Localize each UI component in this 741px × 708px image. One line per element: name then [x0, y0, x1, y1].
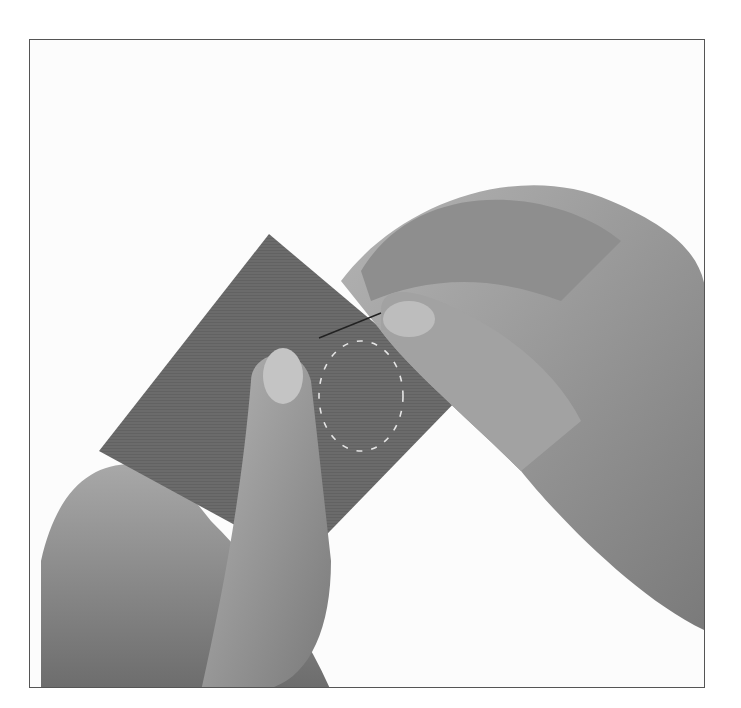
- sewing-photo: [30, 40, 705, 688]
- photo-frame: [29, 39, 705, 688]
- left-thumbnail: [263, 348, 303, 404]
- right-thumbnail: [383, 301, 435, 337]
